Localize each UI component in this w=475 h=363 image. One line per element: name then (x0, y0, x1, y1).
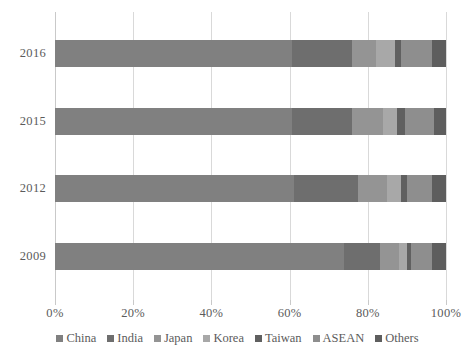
legend-item-others[interactable]: Others (375, 332, 418, 345)
legend-swatch-icon (375, 335, 382, 342)
bar-segment-korea (383, 108, 397, 135)
chart-legend: ChinaIndiaJapanKoreaTaiwanASEANOthers (0, 332, 475, 345)
legend-item-taiwan[interactable]: Taiwan (255, 332, 302, 345)
legend-swatch-icon (154, 335, 161, 342)
legend-item-label: ASEAN (323, 332, 365, 345)
legend-item-label: Korea (213, 332, 244, 345)
bar-segment-china (55, 243, 344, 270)
legend-item-asean[interactable]: ASEAN (313, 332, 365, 345)
legend-swatch-icon (56, 335, 63, 342)
y-axis-label-2012: 2012 (0, 181, 46, 196)
bar-segment-japan (358, 175, 387, 202)
legend-item-label: Japan (164, 332, 192, 345)
bar-row (55, 40, 446, 67)
bar-segment-asean (411, 243, 433, 270)
gridline (446, 12, 447, 300)
legend-item-label: China (66, 332, 96, 345)
bar-segment-asean (407, 175, 432, 202)
stacked-bar-chart: 2016201520122009 0%20%40%60%80%100% Chin… (0, 0, 475, 363)
legend-item-korea[interactable]: Korea (203, 332, 244, 345)
x-axis-label-40%: 40% (199, 306, 223, 321)
bar-segment-taiwan (397, 108, 405, 135)
bar-segment-asean (401, 40, 432, 67)
plot-area (55, 12, 446, 300)
bar-segment-india (292, 108, 353, 135)
bar-row (55, 175, 446, 202)
x-axis-label-60%: 60% (278, 306, 302, 321)
bar-segment-korea (387, 175, 401, 202)
x-axis-label-80%: 80% (356, 306, 380, 321)
legend-swatch-icon (255, 335, 262, 342)
y-axis-label-2009: 2009 (0, 249, 46, 264)
legend-swatch-icon (313, 335, 320, 342)
x-axis-label-0%: 0% (46, 306, 63, 321)
legend-item-label: Taiwan (265, 332, 302, 345)
x-axis-tick (368, 300, 369, 305)
bar-segment-korea (399, 243, 407, 270)
x-axis-tick (133, 300, 134, 305)
bar-segment-others (434, 108, 446, 135)
y-axis-label-2016: 2016 (0, 46, 46, 61)
bar-segment-japan (352, 108, 383, 135)
bar-row (55, 243, 446, 270)
bar-segment-others (432, 243, 446, 270)
bar-segment-japan (352, 40, 375, 67)
bar-segment-china (55, 175, 294, 202)
x-axis-tick (290, 300, 291, 305)
legend-item-label: India (117, 332, 143, 345)
x-axis-label-100%: 100% (431, 306, 461, 321)
bar-row (55, 108, 446, 135)
x-axis-tick (55, 300, 56, 305)
x-axis: 0%20%40%60%80%100% (55, 300, 446, 322)
bar-segment-others (432, 175, 446, 202)
bar-segment-india (294, 175, 359, 202)
bar-segment-india (292, 40, 353, 67)
bar-segment-korea (376, 40, 396, 67)
bar-segment-india (344, 243, 379, 270)
bar-segment-japan (380, 243, 400, 270)
bar-segment-china (55, 108, 292, 135)
legend-item-japan[interactable]: Japan (154, 332, 192, 345)
y-axis-label-2015: 2015 (0, 114, 46, 129)
legend-swatch-icon (107, 335, 114, 342)
legend-item-india[interactable]: India (107, 332, 143, 345)
legend-item-label: Others (385, 332, 418, 345)
legend-swatch-icon (203, 335, 210, 342)
x-axis-tick (446, 300, 447, 305)
x-axis-label-20%: 20% (121, 306, 145, 321)
legend-item-china[interactable]: China (56, 332, 96, 345)
bar-segment-asean (405, 108, 434, 135)
bar-segment-others (432, 40, 446, 67)
bar-segment-china (55, 40, 292, 67)
x-axis-tick (211, 300, 212, 305)
